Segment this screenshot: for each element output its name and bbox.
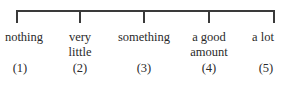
scale-number-1: (1) xyxy=(0,61,40,76)
tick-4 xyxy=(208,10,210,23)
scale-line xyxy=(16,10,275,12)
scale-number-3: (3) xyxy=(124,61,164,76)
tick-1 xyxy=(16,10,18,23)
scale-label-2: verylittle xyxy=(45,30,115,60)
scale-label-3: something xyxy=(109,30,179,45)
scale-number-5: (5) xyxy=(246,61,286,76)
scale-number-2: (2) xyxy=(60,61,100,76)
tick-3 xyxy=(143,10,145,23)
scale-label-5: a lot xyxy=(228,30,288,45)
tick-2 xyxy=(79,10,81,23)
tick-5 xyxy=(273,10,275,23)
scale-number-4: (4) xyxy=(189,61,229,76)
